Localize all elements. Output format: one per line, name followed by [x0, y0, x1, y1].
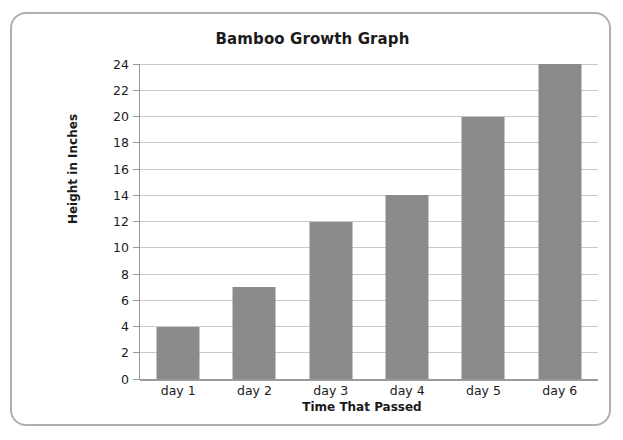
y-tick-label-10: 10 [113, 240, 129, 255]
y-tick-mark-24 [133, 64, 140, 65]
y-tick-mark-18 [133, 142, 140, 143]
y-tick-label-24: 24 [113, 56, 129, 71]
bar-group-3: day 3 [293, 64, 369, 379]
x-tick-label-5: day 5 [466, 383, 501, 398]
y-tick-label-8: 8 [121, 266, 129, 281]
plot-wrapper: 024681012141618202224 day 1day 2day 3day… [129, 52, 597, 379]
worksheet-screenshot: Bamboo Growth Graph Height in Inches 024… [0, 0, 623, 440]
y-tick-mark-12 [133, 221, 140, 222]
y-tick-label-20: 20 [113, 109, 129, 124]
bar-group-4: day 4 [369, 64, 445, 379]
worksheet-card: Bamboo Growth Graph Height in Inches 024… [10, 12, 611, 426]
bar [538, 64, 581, 379]
x-tick-label-6: day 6 [542, 383, 577, 398]
y-tick-label-4: 4 [121, 319, 129, 334]
y-tick-label-14: 14 [113, 187, 129, 202]
y-tick-label-22: 22 [113, 82, 129, 97]
bar-group-5: day 5 [445, 64, 521, 379]
x-tick-label-3: day 3 [313, 383, 348, 398]
x-tick-label-4: day 4 [390, 383, 425, 398]
y-tick-label-12: 12 [113, 214, 129, 229]
plot-area: 024681012141618202224 day 1day 2day 3day… [139, 64, 598, 379]
y-tick-mark-10 [133, 247, 140, 248]
y-tick-mark-22 [133, 90, 140, 91]
y-tick-mark-2 [133, 352, 140, 353]
x-axis-title: Time That Passed [122, 400, 602, 414]
y-tick-mark-6 [133, 300, 140, 301]
y-tick-label-18: 18 [113, 135, 129, 150]
y-tick-mark-14 [133, 195, 140, 196]
y-tick-mark-16 [133, 169, 140, 170]
bar-group-1: day 1 [140, 64, 216, 379]
y-tick-label-6: 6 [121, 292, 129, 307]
gridline-0: 0 [140, 379, 598, 381]
bar [309, 222, 352, 380]
y-tick-label-2: 2 [121, 345, 129, 360]
bar [462, 117, 505, 380]
bar [233, 287, 276, 379]
bar-group-6: day 6 [522, 64, 598, 379]
y-tick-mark-4 [133, 326, 140, 327]
x-tick-label-2: day 2 [237, 383, 272, 398]
y-tick-label-16: 16 [113, 161, 129, 176]
y-tick-label-0: 0 [121, 372, 129, 387]
y-tick-mark-8 [133, 274, 140, 275]
chart-title: Bamboo Growth Graph [12, 30, 613, 48]
bar [386, 195, 429, 379]
y-tick-mark-20 [133, 116, 140, 117]
x-tick-label-1: day 1 [161, 383, 196, 398]
bar [157, 327, 200, 380]
y-tick-mark-0 [133, 379, 140, 380]
bar-group-2: day 2 [216, 64, 292, 379]
y-axis-title: Height in Inches [66, 99, 80, 239]
bars-layer: day 1day 2day 3day 4day 5day 6 [140, 64, 598, 379]
